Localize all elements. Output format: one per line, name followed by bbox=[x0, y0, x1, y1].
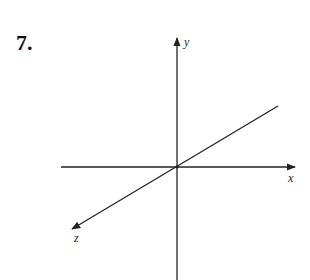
x-axis-label: x bbox=[287, 171, 294, 185]
coordinate-axes-diagram: y x z bbox=[0, 0, 310, 280]
origin-point bbox=[175, 165, 178, 168]
z-axis-label: z bbox=[73, 231, 79, 245]
y-axis-label: y bbox=[183, 35, 190, 49]
